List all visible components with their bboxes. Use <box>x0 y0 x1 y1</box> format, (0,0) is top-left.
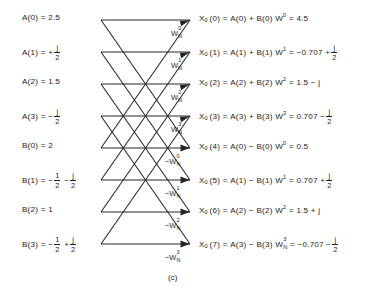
equals-sign: = <box>289 79 294 87</box>
twiddle-7-subscript: N <box>177 258 181 264</box>
output-equation-4: X0(4) = A(0) − B(0) W0 = 0.5 <box>199 143 308 151</box>
operand-a2: A(2) <box>230 207 246 215</box>
denominator: 2 <box>332 54 337 62</box>
input-a0-value: 2.5 <box>48 14 60 22</box>
numerator: j <box>328 172 331 180</box>
fraction-1-over-2: 1 2 <box>54 236 60 253</box>
output-4-symbol-subscript: 0 <box>205 146 208 152</box>
input-b0-name: B(0) <box>22 142 38 150</box>
denominator: 2 <box>333 246 338 254</box>
plus-sign: + <box>320 177 325 185</box>
arrowhead-3 <box>180 116 190 122</box>
twiddle-label-4: − W 0 N <box>165 156 181 167</box>
output-5-index: (5) <box>210 177 221 185</box>
figure-caption: (c) <box>168 273 177 282</box>
equals-sign: = <box>41 142 46 150</box>
equals-sign: = <box>41 113 46 121</box>
plus-sign: + <box>249 113 254 121</box>
output-equation-5: X0(5) = A(1) − B(1) W1 = 0.707 + j 2 <box>199 172 334 189</box>
twiddle-3-indices: 3 N <box>178 124 182 135</box>
equals-sign: = <box>223 177 228 185</box>
twiddle-base: W <box>275 241 283 249</box>
twiddle-1-exponent: 1 <box>178 58 182 64</box>
operand-b3: B(3) <box>256 113 272 121</box>
twiddle-5-exponent: 1 <box>177 186 181 192</box>
output-equation-0: X0(0) = A(0) + B(0) W0 = 4.5 <box>199 15 308 23</box>
operand-b2: B(2) <box>256 79 272 87</box>
equals-sign: = <box>41 177 46 185</box>
arrowhead-5 <box>181 177 191 184</box>
twiddle-0-exponent: 0 <box>178 26 182 32</box>
denominator: 2 <box>71 246 76 254</box>
output-5-symbol-subscript: 0 <box>205 180 208 186</box>
output-6-index: (6) <box>210 207 221 215</box>
twiddle-base: W <box>275 79 283 87</box>
fraction-j-over-2: j 2 <box>54 44 60 61</box>
fraction-j-over-2: j 2 <box>326 172 332 189</box>
output-6-result: 1.5 + j <box>296 207 320 215</box>
numerator: 1 <box>55 172 60 180</box>
plus-sign: + <box>48 49 53 57</box>
input-label-a2: A(2) = 1.5 <box>22 78 60 86</box>
fraction-j-over-2: j 2 <box>54 108 60 125</box>
operand-b0: B(0) <box>256 15 272 23</box>
equals-sign: = <box>223 241 228 249</box>
operand-a1: A(1) <box>230 49 246 57</box>
operand-a0: A(0) <box>230 15 246 23</box>
twiddle-exponent: 3 <box>283 237 287 243</box>
equals-sign: = <box>223 79 228 87</box>
operand-b0: B(0) <box>256 143 272 151</box>
numerator: j <box>328 108 331 116</box>
twiddle-base: W <box>275 15 283 23</box>
equals-sign: = <box>223 15 228 23</box>
input-b0-value: 2 <box>48 142 53 150</box>
output-2-result: 1.5 − j <box>296 79 320 87</box>
input-label-a3: A(3) = − j 2 <box>22 108 62 125</box>
twiddle-base: W <box>275 113 283 121</box>
output-3-real: 0.707 <box>296 113 317 121</box>
twiddle-4-exponent: 0 <box>177 154 181 160</box>
denominator: 2 <box>327 182 332 190</box>
twiddle-base: W <box>275 207 283 215</box>
twiddle-exponent: 2 <box>283 77 286 83</box>
twiddle-3-base: W <box>171 126 178 133</box>
numerator: j <box>334 236 337 244</box>
twiddle-exponent: 0 <box>283 141 286 147</box>
numerator: j <box>56 108 59 116</box>
operand-b1: B(1) <box>256 177 272 185</box>
output-7-index: (7) <box>210 241 221 249</box>
plus-sign: + <box>249 15 254 23</box>
operand-a2: A(2) <box>230 79 246 87</box>
input-a1-name: A(1) <box>22 49 38 57</box>
twiddle-label-2: W 2 N <box>171 92 182 103</box>
input-label-a0: A(0) = 2.5 <box>22 14 60 22</box>
twiddle-6-base: W <box>169 222 176 229</box>
twiddle-exponent: 1 <box>283 47 286 53</box>
output-7-symbol-subscript: 0 <box>205 244 208 250</box>
numerator: j <box>56 44 59 52</box>
equals-sign: = <box>289 113 294 121</box>
numerator: j <box>72 236 75 244</box>
twiddle-7-indices: 3 N <box>283 239 287 250</box>
equals-sign: = <box>289 49 294 57</box>
twiddle-subscript: N <box>283 245 287 251</box>
operand-a3: A(3) <box>230 113 246 121</box>
minus-sign: − <box>48 241 53 249</box>
equals-sign: = <box>223 207 228 215</box>
denominator: 2 <box>71 182 76 190</box>
twiddle-0-base: W <box>171 30 178 37</box>
twiddle-exponent: 0 <box>283 13 286 19</box>
twiddle-2-exponent: 2 <box>178 90 182 96</box>
minus-sign: − <box>249 241 254 249</box>
input-a2-name: A(2) <box>22 78 38 86</box>
output-1-index: (1) <box>210 49 221 57</box>
output-3-index: (3) <box>210 113 221 121</box>
input-a0-name: A(0) <box>22 14 38 22</box>
minus-sign: − <box>326 241 331 249</box>
output-2-symbol-subscript: 0 <box>205 82 208 88</box>
denominator: 2 <box>55 246 60 254</box>
minus-sign: − <box>249 143 254 151</box>
input-label-b3: B(3) = − 1 2 + j 2 <box>22 236 77 253</box>
output-equation-6: X0(6) = A(2) − B(2) W2 = 1.5 + j <box>199 207 320 215</box>
fraction-j-over-2: j 2 <box>326 108 332 125</box>
